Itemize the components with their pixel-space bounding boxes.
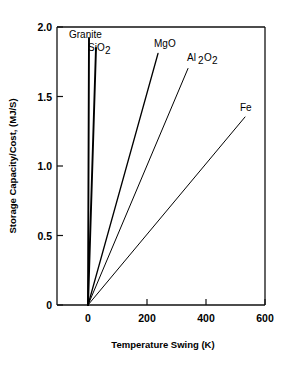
series-label-al2o2-text: Al bbox=[187, 52, 196, 63]
series-label-al2o2-sub2: 2 bbox=[212, 55, 218, 66]
x-axis-ticks bbox=[88, 299, 265, 305]
series-line-fe bbox=[88, 117, 245, 305]
y-tick-label-1.0: 1.0 bbox=[37, 160, 52, 172]
chart-canvas: 2.0 1.5 1.0 0.5 0 0 200 400 600 Temperat… bbox=[0, 0, 285, 374]
series-lines bbox=[88, 38, 245, 305]
x-tick-label-0: 0 bbox=[85, 312, 91, 324]
series-label-fe: Fe bbox=[240, 102, 252, 113]
series-label-sio2: SiO 2 bbox=[88, 42, 111, 56]
series-line-al2o2 bbox=[88, 69, 188, 306]
series-label-sio2-text: SiO bbox=[88, 42, 105, 53]
x-tick-label-200: 200 bbox=[138, 312, 156, 324]
series-label-granite: Granite bbox=[69, 29, 102, 40]
series-label-al2o2: Al 2 O 2 bbox=[187, 52, 218, 66]
y-tick-label-1.5: 1.5 bbox=[37, 91, 52, 103]
series-line-mgo bbox=[88, 54, 158, 306]
chart-figure: 2.0 1.5 1.0 0.5 0 0 200 400 600 Temperat… bbox=[0, 0, 285, 374]
series-label-sio2-sub: 2 bbox=[105, 45, 111, 56]
y-axis-title: Storage Capacity/Cost, (MJ/S) bbox=[7, 98, 18, 233]
y-tick-label-0: 0 bbox=[46, 299, 52, 311]
x-tick-label-400: 400 bbox=[197, 312, 215, 324]
x-tick-label-600: 600 bbox=[256, 312, 274, 324]
y-axis-ticks bbox=[57, 27, 63, 305]
x-axis-title: Temperature Swing (K) bbox=[111, 339, 214, 350]
series-label-mgo: MgO bbox=[154, 38, 176, 49]
y-tick-label-0.5: 0.5 bbox=[37, 230, 52, 242]
y-tick-label-2.0: 2.0 bbox=[37, 21, 52, 33]
series-label-al2o2-text2: O bbox=[204, 52, 212, 63]
